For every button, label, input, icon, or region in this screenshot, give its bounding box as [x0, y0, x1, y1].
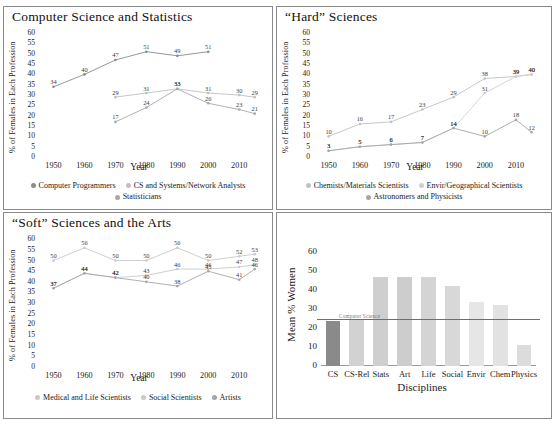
legend-item[interactable]: Computer Programmers — [31, 180, 116, 191]
panel-mean-women: Mean % Women 0102030405060 CSCS-RelStats… — [276, 212, 552, 419]
legend-swatch-icon — [366, 195, 371, 200]
data-point-label: 39 — [513, 68, 519, 75]
y-tick: 30 — [299, 303, 317, 313]
y-tick: 5 — [292, 142, 310, 151]
legend-cs-stats: Computer ProgrammersCS and Systems/Netwo… — [4, 179, 272, 202]
x-axis-label-soft-sciences: Year — [34, 373, 244, 383]
legend-item[interactable]: Astronomers and Physicists — [366, 191, 463, 202]
y-tick: 5 — [17, 351, 35, 360]
y-tick: 0 — [292, 152, 310, 161]
data-point-label: 3 — [327, 142, 330, 149]
data-point-label: 50 — [143, 252, 149, 259]
data-point-label: 14 — [450, 120, 456, 127]
data-point-label: 49 — [174, 47, 180, 54]
data-point-label: 26 — [205, 95, 211, 102]
bar[interactable] — [397, 277, 412, 366]
data-point-label: 56 — [174, 239, 180, 246]
data-point-label: 46 — [252, 261, 258, 268]
y-tick: 10 — [17, 131, 35, 140]
y-axis-label-soft-sciences: % of Females in Each Profession — [8, 235, 17, 375]
series-lines — [38, 235, 264, 367]
data-point-label: 17 — [112, 113, 118, 120]
y-tick: 10 — [292, 131, 310, 140]
y-tick: 55 — [17, 245, 35, 254]
data-point-label: 29 — [450, 89, 456, 96]
legend-swatch-icon — [31, 183, 36, 188]
bar[interactable] — [349, 319, 364, 366]
legend-label: Chemists/Materials Scientists — [314, 181, 409, 190]
data-point-label: 33 — [174, 80, 180, 87]
data-point-label: 50 — [205, 252, 211, 259]
legend-item[interactable]: Chemists/Materials Scientists — [306, 180, 409, 191]
y-tick: 20 — [17, 111, 35, 120]
y-tick: 45 — [292, 59, 310, 68]
legend-label: Envir/Geographical Scientists — [427, 181, 523, 190]
y-tick: 60 — [299, 246, 317, 256]
legend-item[interactable]: Statisticians — [115, 191, 162, 202]
data-point-label: 16 — [357, 115, 363, 122]
data-point-label: 47 — [112, 51, 118, 58]
legend-label: Artists — [220, 393, 241, 402]
clipped-header-text — [278, 0, 553, 5]
legend-swatch-icon — [115, 195, 120, 200]
data-point-label: 24 — [143, 99, 149, 106]
y-axis-label-cs-stats: % of Females in Each Profession — [8, 29, 17, 165]
legend-label: Medical and Life Scientists — [43, 393, 131, 402]
plot-area-mean-women: Computer Science — [321, 241, 536, 366]
x-tick: Physics — [509, 369, 539, 379]
legend-swatch-icon — [306, 183, 311, 188]
chart-title-soft-sciences: “Soft” Sciences and the Arts — [12, 215, 171, 231]
chart-title-cs-stats: Computer Science and Statistics — [12, 9, 193, 25]
data-point-label: 51 — [205, 43, 211, 50]
legend-soft-sciences: Medical and Life ScientistsSocial Scient… — [4, 391, 272, 403]
bar[interactable] — [326, 321, 341, 366]
y-tick: 35 — [292, 80, 310, 89]
bar[interactable] — [445, 286, 460, 366]
y-tick: 25 — [17, 309, 35, 318]
y-tick: 50 — [17, 256, 35, 265]
y-tick: 50 — [292, 49, 310, 58]
data-point-label: 5 — [358, 138, 361, 145]
legend-item[interactable]: Artists — [212, 392, 241, 403]
series-lines — [313, 29, 541, 157]
bar[interactable] — [373, 277, 388, 366]
bar[interactable] — [421, 277, 436, 366]
y-tick: 20 — [299, 322, 317, 332]
data-point-label: 38 — [174, 278, 180, 285]
data-point-label: 52 — [236, 248, 242, 255]
legend-label: Statisticians — [123, 192, 162, 201]
legend-label: Social Scientists — [149, 393, 202, 402]
legend-label: Computer Programmers — [39, 181, 116, 190]
y-tick: 50 — [17, 49, 35, 58]
panel-cs-stats: Computer Science and Statistics % of Fem… — [3, 6, 273, 210]
y-tick: 15 — [17, 121, 35, 130]
bar[interactable] — [493, 305, 508, 366]
data-point-label: 31 — [205, 85, 211, 92]
data-point-label: 40 — [143, 273, 149, 280]
bar[interactable] — [469, 302, 484, 366]
data-point-label: 50 — [50, 252, 56, 259]
y-tick: 0 — [17, 152, 35, 161]
y-tick: 55 — [292, 38, 310, 47]
reference-line — [317, 319, 540, 320]
data-point-label: 51 — [143, 43, 149, 50]
bar[interactable] — [517, 345, 532, 366]
legend-swatch-icon — [141, 395, 146, 400]
data-point-label: 30 — [236, 87, 242, 94]
y-tick: 45 — [17, 59, 35, 68]
y-tick: 30 — [17, 298, 35, 307]
legend-item[interactable]: Social Scientists — [141, 392, 202, 403]
data-point-label: 6 — [389, 136, 392, 143]
y-axis-label-hard-sciences: % of Females in Each Profession — [281, 29, 290, 165]
y-tick: 40 — [299, 284, 317, 294]
y-tick: 25 — [17, 100, 35, 109]
legend-item[interactable]: Envir/Geographical Scientists — [419, 180, 523, 191]
legend-swatch-icon — [126, 183, 131, 188]
legend-item[interactable]: CS and Systems/Network Analysts — [126, 180, 246, 191]
legend-item[interactable]: Medical and Life Scientists — [35, 392, 131, 403]
data-point-label: 29 — [112, 89, 118, 96]
data-point-label: 42 — [112, 269, 118, 276]
legend-label: CS and Systems/Network Analysts — [134, 181, 246, 190]
panel-soft-sciences: “Soft” Sciences and the Arts % of Female… — [3, 212, 273, 419]
y-tick: 15 — [292, 121, 310, 130]
